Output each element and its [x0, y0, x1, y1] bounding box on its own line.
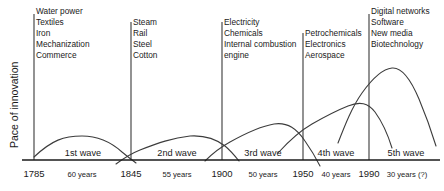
duration-label-3: 50 years	[248, 170, 277, 179]
x-tick-1990: 1990	[358, 168, 379, 179]
x-tick-1845: 1845	[120, 168, 141, 179]
wave-label-2: 2nd wave	[157, 148, 196, 158]
innovation-label-1-1: Textiles	[36, 17, 64, 27]
innovation-label-2-2: Steel	[133, 39, 152, 49]
duration-label-5: 30 years (?)	[387, 170, 428, 179]
chart-canvas: Pace of innovation Water power Textiles …	[0, 0, 444, 191]
wave-label-1: 1st wave	[65, 148, 101, 158]
kondratiev-waves-diagram: Pace of innovation Water power Textiles …	[0, 0, 444, 191]
x-tick-1950: 1950	[292, 168, 313, 179]
innovation-label-3-2: Internal combustion	[224, 39, 297, 49]
innovation-label-1-4: Commerce	[36, 50, 77, 60]
innovation-label-1-3: Mechanization	[36, 39, 90, 49]
wave-label-3: 3rd wave	[244, 148, 281, 158]
innovation-label-5-2: New media	[371, 28, 413, 38]
innovation-label-5-3: Biotechnology	[371, 39, 424, 49]
innovation-label-5-0: Digital networks	[371, 6, 430, 16]
innovation-label-2-0: Steam	[133, 17, 157, 27]
x-tick-1900: 1900	[211, 168, 232, 179]
duration-label-4: 40 years	[321, 170, 350, 179]
innovation-label-4-0: Petrochemicals	[305, 28, 362, 38]
wave-curve-4	[278, 103, 392, 153]
innovation-label-4-2: Aerospace	[305, 50, 345, 60]
innovation-label-1-2: Iron	[36, 28, 51, 38]
duration-label-2: 55 years	[162, 170, 191, 179]
duration-label-1: 60 years	[67, 170, 96, 179]
innovation-label-5-1: Software	[371, 17, 404, 27]
wave-label-5: 5th wave	[388, 148, 425, 158]
innovation-label-2-3: Cotton	[133, 50, 158, 60]
innovation-label-3-1: Chemicals	[224, 28, 263, 38]
x-tick-1785: 1785	[23, 168, 44, 179]
wave-label-4: 4th wave	[318, 148, 355, 158]
innovation-label-3-3: engine	[224, 50, 249, 60]
y-axis-title: Pace of innovation	[8, 61, 20, 148]
innovation-label-4-1: Electronics	[305, 39, 346, 49]
innovation-label-3-0: Electricity	[224, 17, 260, 27]
innovation-label-1-0: Water power	[36, 6, 83, 16]
innovation-label-2-1: Rail	[133, 28, 147, 38]
